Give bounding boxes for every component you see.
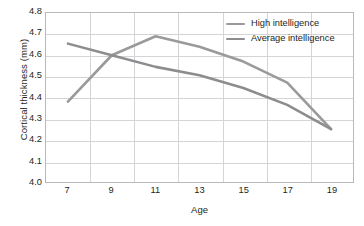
x-axis-title: Age — [45, 204, 354, 215]
x-tick-label: 15 — [238, 186, 248, 195]
y-tick-label: 4.2 — [14, 136, 42, 145]
y-tick-label: 4.0 — [14, 178, 42, 187]
series-line — [68, 36, 331, 129]
y-tick-label: 4.5 — [14, 71, 42, 80]
x-tick-label: 11 — [151, 186, 161, 195]
legend-item[interactable]: Average intelligence — [226, 33, 335, 45]
x-tick-label: 7 — [64, 186, 69, 195]
legend-color-swatch — [226, 38, 245, 41]
legend-label: High intelligence — [251, 19, 319, 28]
legend-item[interactable]: High intelligence — [226, 18, 335, 30]
x-axis-tick-labels: 791113151719 — [45, 186, 354, 200]
y-tick-label: 4.7 — [14, 29, 42, 38]
chart-legend: High intelligenceAverage intelligence — [226, 18, 335, 45]
y-tick-label: 4.6 — [14, 50, 42, 59]
y-tick-label: 4.3 — [14, 114, 42, 123]
x-tick-label: 9 — [109, 186, 114, 195]
x-tick-label: 13 — [194, 186, 204, 195]
y-tick-label: 4.8 — [14, 7, 42, 16]
y-tick-label: 4.1 — [14, 157, 42, 166]
y-axis-tick-labels: 4.04.14.24.34.44.54.64.74.8 — [14, 0, 42, 226]
y-tick-label: 4.4 — [14, 93, 42, 102]
legend-label: Average intelligence — [251, 34, 335, 43]
x-tick-label: 19 — [327, 186, 337, 195]
legend-color-swatch — [226, 23, 245, 26]
cortical-thickness-line-chart: Cortical thickness (mm) 4.04.14.24.34.44… — [0, 0, 364, 226]
x-tick-label: 17 — [283, 186, 293, 195]
